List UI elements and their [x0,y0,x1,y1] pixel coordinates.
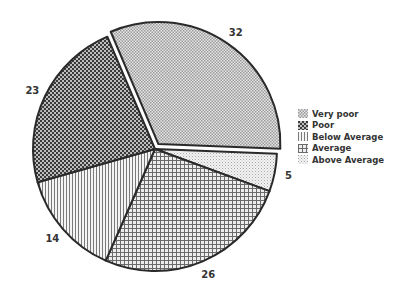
pie-slices [33,22,280,271]
legend-item-average: Average [298,143,384,155]
slice-label-poor: 23 [25,85,39,96]
legend: Very poorPoorBelow AverageAverageAbove A… [298,108,384,166]
legend-item-very-poor: Very poor [298,108,384,120]
legend-label: Average [312,143,351,153]
slice-label-average: 26 [201,269,215,280]
legend-swatch-icon [298,144,308,153]
legend-label: Very poor [312,109,359,119]
slice-label-below-average: 14 [45,233,59,244]
legend-label: Poor [312,120,334,130]
legend-swatch-icon [298,155,308,164]
legend-item-above-average: Above Average [298,154,384,166]
legend-label: Above Average [312,155,384,165]
legend-item-poor: Poor [298,120,384,132]
legend-swatch-icon [298,109,308,118]
legend-item-below-average: Below Average [298,131,384,143]
legend-swatch-icon [298,121,308,130]
legend-swatch-icon [298,132,308,141]
slice-label-very-poor: 32 [229,27,243,38]
slice-label-above-average: 5 [285,170,292,181]
legend-label: Below Average [312,132,383,142]
